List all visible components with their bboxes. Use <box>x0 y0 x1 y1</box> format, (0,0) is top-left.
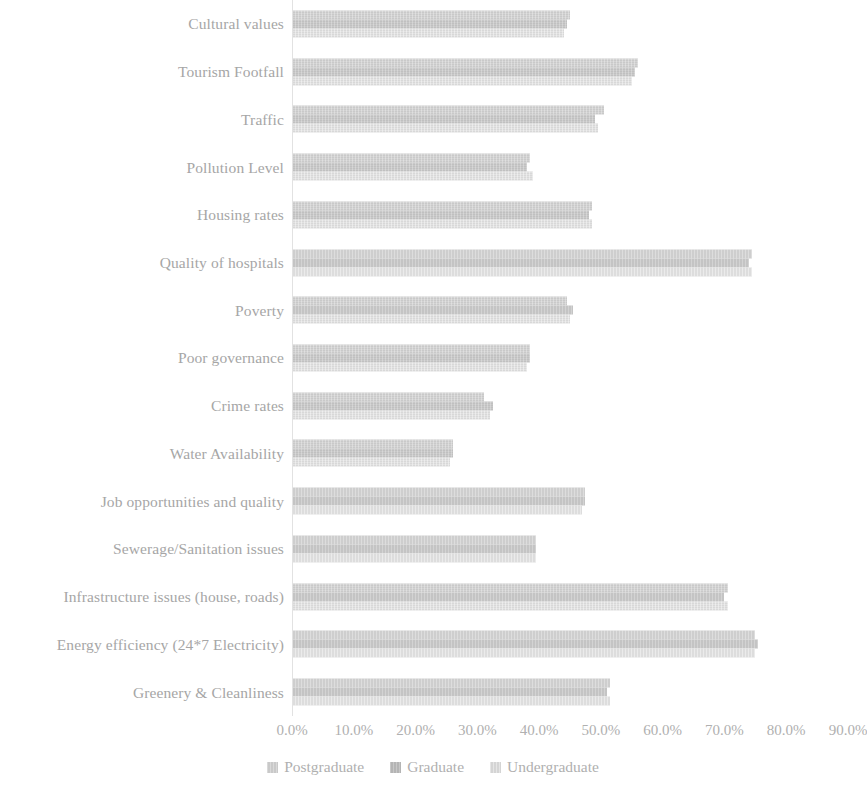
bar-undergraduate <box>292 553 536 562</box>
bar-postgraduate <box>292 58 638 67</box>
category-label: Poor governance <box>0 349 292 366</box>
legend-swatch-icon <box>490 762 501 773</box>
category-row: Poor governance <box>0 334 866 382</box>
category-row: Infrastructure issues (house, roads) <box>0 573 866 621</box>
bar-group <box>292 345 866 372</box>
bar-graduate <box>292 449 453 458</box>
category-row: Greenery & Cleanliness <box>0 668 866 716</box>
bar-undergraduate <box>292 601 728 610</box>
x-tick-label: 80.0% <box>767 722 806 739</box>
bars-area <box>292 573 866 621</box>
bar-group <box>292 535 866 562</box>
category-row: Poverty <box>0 286 866 334</box>
legend-item[interactable]: Undergraduate <box>490 758 599 776</box>
bar-postgraduate <box>292 535 536 544</box>
bars-area <box>292 286 866 334</box>
bars-area <box>292 143 866 191</box>
bars-area <box>292 430 866 478</box>
bar-postgraduate <box>292 583 728 592</box>
bars-area <box>292 334 866 382</box>
chart-legend: PostgraduateGraduateUndergraduate <box>0 758 866 776</box>
bar-graduate <box>292 163 527 172</box>
bar-undergraduate <box>292 410 490 419</box>
category-label: Job opportunities and quality <box>0 493 292 510</box>
bar-postgraduate <box>292 201 592 210</box>
bar-group <box>292 297 866 324</box>
bar-group <box>292 249 866 276</box>
x-tick-label: 30.0% <box>458 722 497 739</box>
legend-item[interactable]: Postgraduate <box>267 758 364 776</box>
category-label: Crime rates <box>0 397 292 414</box>
value-axis-line <box>292 0 293 716</box>
category-row: Crime rates <box>0 382 866 430</box>
category-label: Energy efficiency (24*7 Electricity) <box>0 636 292 653</box>
category-row: Job opportunities and quality <box>0 477 866 525</box>
bar-undergraduate <box>292 76 632 85</box>
bar-postgraduate <box>292 10 570 19</box>
category-label: Pollution Level <box>0 159 292 176</box>
x-tick-label: 60.0% <box>643 722 682 739</box>
bar-postgraduate <box>292 631 755 640</box>
bar-graduate <box>292 115 595 124</box>
category-label: Infrastructure issues (house, roads) <box>0 588 292 605</box>
category-label: Poverty <box>0 302 292 319</box>
bar-postgraduate <box>292 297 567 306</box>
category-row: Housing rates <box>0 191 866 239</box>
category-row: Sewerage/Sanitation issues <box>0 525 866 573</box>
bars-area <box>292 239 866 287</box>
category-label: Cultural values <box>0 15 292 32</box>
bar-undergraduate <box>292 124 598 133</box>
legend-item[interactable]: Graduate <box>390 758 464 776</box>
bar-postgraduate <box>292 345 530 354</box>
bar-undergraduate <box>292 697 610 706</box>
legend-swatch-icon <box>267 762 278 773</box>
bar-graduate <box>292 401 493 410</box>
bar-group <box>292 631 866 658</box>
x-axis-tick-labels: 0.0%10.0%20.0%30.0%40.0%50.0%60.0%70.0%8… <box>0 716 866 750</box>
x-tick-label: 20.0% <box>396 722 435 739</box>
category-rows: Cultural valuesTourism FootfallTrafficPo… <box>0 0 866 716</box>
category-label: Water Availability <box>0 445 292 462</box>
bars-area <box>292 191 866 239</box>
category-label: Quality of hospitals <box>0 254 292 271</box>
bar-graduate <box>292 306 573 315</box>
bar-group <box>292 679 866 706</box>
bar-undergraduate <box>292 363 527 372</box>
bar-undergraduate <box>292 506 582 515</box>
bar-graduate <box>292 544 536 553</box>
bar-graduate <box>292 640 758 649</box>
category-label: Housing rates <box>0 206 292 223</box>
bar-postgraduate <box>292 679 610 688</box>
bar-postgraduate <box>292 440 453 449</box>
bar-graduate <box>292 210 589 219</box>
category-label: Greenery & Cleanliness <box>0 684 292 701</box>
bars-area <box>292 382 866 430</box>
bar-undergraduate <box>292 172 533 181</box>
bar-undergraduate <box>292 458 450 467</box>
bar-graduate <box>292 592 724 601</box>
bar-graduate <box>292 497 585 506</box>
x-tick-label: 70.0% <box>705 722 744 739</box>
category-label: Tourism Footfall <box>0 63 292 80</box>
bar-group <box>292 488 866 515</box>
category-row: Pollution Level <box>0 143 866 191</box>
category-row: Traffic <box>0 95 866 143</box>
bar-group <box>292 58 866 85</box>
x-tick-label: 0.0% <box>276 722 307 739</box>
bar-undergraduate <box>292 28 564 37</box>
bar-group <box>292 440 866 467</box>
x-tick-label: 50.0% <box>582 722 621 739</box>
category-row: Cultural values <box>0 0 866 48</box>
bars-area <box>292 48 866 96</box>
legend-label: Graduate <box>407 758 464 776</box>
x-tick-label: 40.0% <box>520 722 559 739</box>
legend-label: Undergraduate <box>507 758 599 776</box>
bar-group <box>292 583 866 610</box>
legend-swatch-icon <box>390 762 401 773</box>
bar-postgraduate <box>292 106 604 115</box>
bar-graduate <box>292 258 749 267</box>
category-label: Sewerage/Sanitation issues <box>0 540 292 557</box>
bars-area <box>292 621 866 669</box>
bar-postgraduate <box>292 154 530 163</box>
